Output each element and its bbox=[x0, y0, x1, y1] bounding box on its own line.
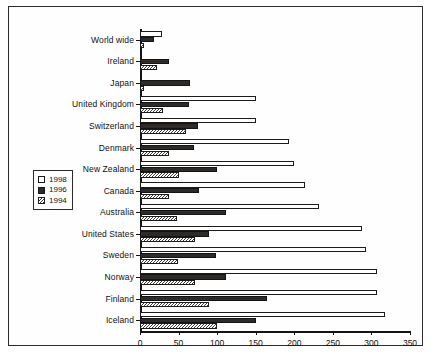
bar-1996 bbox=[140, 296, 267, 301]
bar-1998 bbox=[140, 96, 256, 101]
x-axis bbox=[140, 331, 411, 333]
x-tick-label-350: 350 bbox=[403, 338, 417, 348]
x-tick-0 bbox=[140, 331, 141, 335]
x-tick-350 bbox=[410, 331, 411, 335]
bar-1994 bbox=[140, 237, 195, 242]
bar-group: Sweden bbox=[140, 247, 410, 264]
x-tick-label-300: 300 bbox=[364, 338, 378, 348]
legend-swatch-1998 bbox=[38, 176, 45, 183]
category-label: World wide bbox=[91, 36, 134, 45]
bar-1998 bbox=[140, 226, 362, 231]
x-tick-label-0: 0 bbox=[138, 338, 143, 348]
bar-1996 bbox=[140, 59, 169, 64]
bar-1996 bbox=[140, 102, 189, 107]
bar-1994 bbox=[140, 151, 169, 156]
category-label: Finland bbox=[105, 295, 134, 304]
legend-swatch-1994 bbox=[38, 197, 45, 204]
legend-label-1998: 1998 bbox=[49, 176, 67, 184]
legend-swatch-1996 bbox=[38, 187, 45, 194]
category-label: Sweden bbox=[103, 251, 134, 260]
bar-group: World wide bbox=[140, 31, 410, 48]
bar-group: Iceland bbox=[140, 312, 410, 329]
bar-1996 bbox=[140, 167, 217, 172]
bar-1994 bbox=[140, 129, 186, 134]
x-tick-300 bbox=[371, 331, 372, 335]
category-label: Norway bbox=[105, 273, 134, 282]
bar-group: United States bbox=[140, 226, 410, 243]
legend-item-1996[interactable]: 1996 bbox=[38, 185, 67, 195]
x-tick-100 bbox=[217, 331, 218, 335]
category-label: United Kingdom bbox=[72, 100, 134, 109]
x-tick-200 bbox=[294, 331, 295, 335]
chart-frame: 050100150200250300350 World wideIrelandJ… bbox=[8, 6, 423, 346]
bar-1994 bbox=[140, 302, 209, 307]
bar-1994 bbox=[140, 86, 144, 91]
bar-1994 bbox=[140, 194, 169, 199]
bar-1998 bbox=[140, 290, 377, 295]
legend-item-1994[interactable]: 1994 bbox=[38, 196, 67, 206]
legend-label-1994: 1994 bbox=[49, 197, 67, 205]
x-tick-150 bbox=[256, 331, 257, 335]
bar-1996 bbox=[140, 210, 226, 215]
category-label: Canada bbox=[104, 187, 134, 196]
bar-1996 bbox=[140, 318, 256, 323]
category-label: United States bbox=[82, 230, 134, 239]
bar-1994 bbox=[140, 108, 163, 113]
bar-1996 bbox=[140, 188, 199, 193]
bar-1998 bbox=[140, 247, 366, 252]
x-tick-label-150: 150 bbox=[249, 338, 263, 348]
bar-1998 bbox=[140, 312, 385, 317]
bar-1996 bbox=[140, 274, 226, 279]
bar-group: Switzerland bbox=[140, 118, 410, 135]
bar-1996 bbox=[140, 231, 209, 236]
bar-1994 bbox=[140, 323, 217, 328]
category-label: New Zealand bbox=[83, 165, 134, 174]
bar-1994 bbox=[140, 259, 178, 264]
bar-1998 bbox=[140, 118, 256, 123]
bar-1998 bbox=[140, 139, 289, 144]
bar-1996 bbox=[140, 123, 198, 128]
x-tick-50 bbox=[179, 331, 180, 335]
x-tick-label-200: 200 bbox=[287, 338, 301, 348]
x-tick-label-250: 250 bbox=[326, 338, 340, 348]
legend-label-1996: 1996 bbox=[49, 186, 67, 194]
category-label: Switzerland bbox=[89, 122, 134, 131]
x-tick-label-100: 100 bbox=[210, 338, 224, 348]
bar-1996 bbox=[140, 145, 194, 150]
bar-1998 bbox=[140, 31, 162, 36]
chart-legend: 199819961994 bbox=[33, 170, 73, 210]
bar-group: Denmark bbox=[140, 139, 410, 156]
category-label: Ireland bbox=[107, 57, 134, 66]
bar-1994 bbox=[140, 172, 179, 177]
bar-1998 bbox=[140, 204, 319, 209]
bar-group: Canada bbox=[140, 182, 410, 199]
bar-1994 bbox=[140, 65, 157, 70]
category-label: Japan bbox=[110, 79, 134, 88]
bar-1998 bbox=[140, 269, 377, 274]
bar-1996 bbox=[140, 80, 190, 85]
bar-group: United Kingdom bbox=[140, 96, 410, 113]
bar-group: Australia bbox=[140, 204, 410, 221]
bar-group: Japan bbox=[140, 75, 410, 92]
bar-1994 bbox=[140, 280, 195, 285]
bar-1996 bbox=[140, 37, 154, 42]
legend-item-1998[interactable]: 1998 bbox=[38, 175, 67, 185]
category-label: Iceland bbox=[106, 316, 134, 325]
bar-1994 bbox=[140, 43, 144, 48]
bar-1996 bbox=[140, 253, 216, 258]
bar-group: Finland bbox=[140, 290, 410, 307]
category-label: Australia bbox=[100, 208, 134, 217]
bar-1998 bbox=[140, 161, 294, 166]
x-tick-label-50: 50 bbox=[174, 338, 183, 348]
bar-group: New Zealand bbox=[140, 161, 410, 178]
bar-group: Norway bbox=[140, 269, 410, 286]
bar-1998 bbox=[140, 182, 305, 187]
bar-group: Ireland bbox=[140, 53, 410, 70]
x-tick-250 bbox=[333, 331, 334, 335]
bar-1994 bbox=[140, 216, 177, 221]
category-label: Denmark bbox=[99, 144, 134, 153]
